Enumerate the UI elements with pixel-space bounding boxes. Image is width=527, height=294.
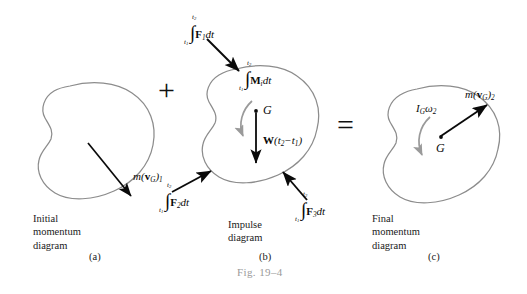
weight-minus: − — [284, 134, 291, 146]
integral-group-f3: t2 ∫ t1 — [296, 199, 306, 219]
force-impulse-label-f2: t2 ∫ t1 F2dt — [160, 190, 189, 211]
center-of-mass-label-impulse: G — [263, 104, 272, 117]
force-symbol-f2: F — [170, 196, 177, 208]
integral-lower-limit-f3: t1 — [295, 216, 299, 224]
panel-letter-b: (b) — [259, 251, 271, 262]
caption-final-momentum-diagram: Final momentum diagram — [372, 212, 420, 252]
integral-group-f1: t2 ∫ t1 — [185, 22, 195, 42]
caption-initial-line2: momentum — [33, 225, 81, 238]
force-impulse-arrow-f1 — [207, 39, 239, 71]
integral-upper-limit-f2: t2 — [167, 182, 171, 190]
integral-symbol-f2: ∫ — [165, 190, 170, 211]
center-of-mass-label-final: G — [436, 142, 445, 155]
integral-upper-limit-moment: t2 — [247, 60, 251, 68]
panel-letter-a: (a) — [89, 251, 101, 262]
impulse-momentum-figure: + = m(vG)1 Initial momentum diagram (a) … — [0, 0, 527, 294]
integral-lower-limit-moment: t1 — [239, 85, 243, 93]
caption-final-line2: momentum — [372, 225, 420, 238]
force-dt-f1: dt — [206, 28, 215, 40]
momentum-mass-initial: m — [133, 170, 141, 182]
angular-momentum-label: IGω2 — [416, 103, 436, 117]
force-impulse-label-f1: t2 ∫ t1 F1dt — [185, 22, 214, 43]
caption-impulse-line2: diagram — [228, 231, 262, 244]
force-symbol-f3: F — [306, 205, 313, 217]
force-dt-f3: dt — [317, 205, 326, 217]
weight-symbol: W — [263, 134, 274, 146]
integral-symbol-moment: ∫ — [245, 68, 250, 89]
caption-final-line3: diagram — [372, 239, 420, 252]
momentum-time-subscript-final: 2 — [491, 94, 495, 102]
angular-velocity-symbol: ω — [425, 102, 433, 114]
momentum-mass-final: m — [465, 88, 473, 100]
plus-operator: + — [158, 73, 175, 107]
integral-upper-limit-f1: t2 — [192, 14, 196, 22]
center-of-mass-dot-impulse — [254, 109, 258, 113]
figure-number: Fig. 19–4 — [237, 266, 283, 278]
caption-impulse-line1: Impulse — [228, 218, 262, 231]
caption-impulse-diagram: Impulse diagram — [228, 218, 262, 245]
center-of-mass-dot-final — [439, 135, 443, 139]
integral-lower-limit-f2: t1 — [159, 207, 163, 215]
integral-symbol-f3: ∫ — [301, 199, 306, 220]
force-dt-f2: dt — [181, 196, 190, 208]
momentum-vector-arrow-final — [441, 105, 487, 136]
equals-operator: = — [337, 108, 354, 142]
integral-lower-limit-f1: t1 — [184, 39, 188, 47]
force-impulse-arrow-f2 — [172, 171, 211, 192]
momentum-time-subscript-initial: 1 — [159, 176, 163, 184]
force-symbol-f1: F — [195, 28, 202, 40]
weight-impulse-label: W(t2−t1) — [263, 135, 302, 149]
moment-impulse-label: t2 ∫ t1 Midt — [240, 68, 271, 89]
angular-momentum-arc-arrow — [419, 117, 430, 155]
caption-final-line1: Final — [372, 212, 420, 225]
integral-group-f2: t2 ∫ t1 — [160, 190, 170, 210]
momentum-vector-arrow-initial — [88, 143, 131, 196]
integral-upper-limit-f3: t2 — [303, 191, 307, 199]
angular-velocity-subscript: 2 — [433, 108, 437, 116]
caption-initial-line1: Initial — [33, 212, 81, 225]
panel-letter-c: (c) — [428, 251, 440, 262]
momentum-label-final: m(vG)2 — [465, 89, 495, 103]
caption-initial-momentum-diagram: Initial momentum diagram — [33, 212, 81, 252]
momentum-label-initial: m(vG)1 — [133, 171, 163, 185]
moment-dt: dt — [263, 74, 272, 86]
integral-group-moment: t2 ∫ t1 — [240, 68, 250, 88]
weight-paren-close: ) — [298, 134, 302, 146]
integral-symbol-f1: ∫ — [190, 22, 195, 43]
force-impulse-label-f3: t2 ∫ t1 F3dt — [296, 199, 325, 220]
moment-symbol: M — [250, 74, 260, 86]
caption-initial-line3: diagram — [33, 239, 81, 252]
moment-impulse-arc-arrow — [241, 101, 252, 136]
